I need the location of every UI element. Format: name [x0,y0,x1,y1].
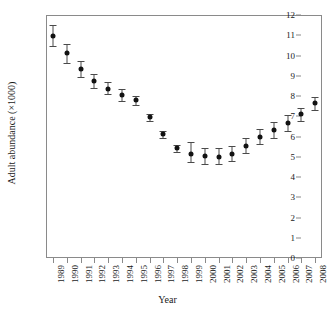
error-bar-cap [187,142,194,143]
x-tick-label: 2000 [209,265,218,283]
error-bar-cap [63,63,70,64]
error-bar-cap [243,153,250,154]
x-tick-label: 1991 [85,265,94,283]
data-point [64,51,69,56]
error-bar-cap [243,138,250,139]
data-point [244,144,249,149]
x-tick-mark [53,258,54,263]
abundance-chart-figure: Adult abundance (×1000) Year 01234567891… [0,0,335,316]
error-bar-cap [298,108,305,109]
error-bar-cap [256,129,263,130]
error-bar-cap [49,46,56,47]
y-tick-label: 0 [291,254,296,263]
y-tick-mark [296,35,301,36]
x-tick-mark [232,258,233,263]
error-bar-cap [132,96,139,97]
error-bar-cap [63,44,70,45]
data-point [50,34,55,39]
data-point [92,78,97,83]
x-tick-mark [122,258,123,263]
y-tick-label: 7 [291,112,296,121]
error-bar-cap [201,164,208,165]
error-bar-cap [77,77,84,78]
x-tick-label: 2002 [236,265,245,283]
error-bar-cap [187,162,194,163]
x-tick-label: 1999 [195,265,204,283]
error-bar-cap [105,82,112,83]
x-tick-label: 2004 [264,265,273,283]
data-point [133,98,138,103]
y-tick-label: 5 [291,152,296,161]
data-point [78,67,83,72]
x-tick-label: 1993 [112,265,121,283]
error-bar-cap [201,148,208,149]
y-tick-mark [296,136,301,137]
x-tick-mark [136,258,137,263]
error-bar-cap [91,74,98,75]
error-bar-cap [312,97,319,98]
x-tick-label: 2005 [278,265,287,283]
error-bar-cap [256,144,263,145]
x-tick-mark [274,258,275,263]
x-tick-label: 1997 [167,265,176,283]
y-tick-label: 11 [286,31,295,40]
x-tick-mark [246,258,247,263]
error-bar-cap [174,152,181,153]
x-tick-mark [163,258,164,263]
x-tick-mark [191,258,192,263]
x-tick-label: 1994 [126,265,135,283]
y-tick-mark [296,96,301,97]
error-bar-cap [298,121,305,122]
y-tick-mark [296,15,301,16]
y-tick-label: 12 [286,11,295,20]
x-tick-mark [94,258,95,263]
x-tick-label: 2001 [223,265,232,283]
y-tick-mark [296,258,301,259]
x-tick-mark [315,258,316,263]
y-tick-label: 1 [291,233,296,242]
error-bar-cap [215,164,222,165]
error-bar-cap [49,25,56,26]
y-tick-mark [296,75,301,76]
error-bar-cap [132,105,139,106]
x-tick-mark [177,258,178,263]
x-tick-label: 2003 [250,265,259,283]
data-point [106,86,111,91]
x-tick-label: 1996 [154,265,163,283]
error-bar-cap [160,138,167,139]
x-tick-label: 1990 [71,265,80,283]
y-tick-label: 6 [291,132,296,141]
x-axis-label: Year [0,295,335,305]
x-tick-label: 1995 [140,265,149,283]
x-tick-mark [301,258,302,263]
x-tick-label: 1992 [98,265,107,283]
error-bar-cap [118,101,125,102]
x-tick-label: 2006 [292,265,301,283]
data-point [285,120,290,125]
error-bar-cap [91,88,98,89]
error-bar-cap [229,146,236,147]
data-point [216,154,221,159]
error-bar-cap [215,148,222,149]
error-bar-cap [312,110,319,111]
data-point [271,128,276,133]
data-point [175,146,180,151]
y-tick-label: 4 [291,173,296,182]
error-bar-cap [270,122,277,123]
x-tick-mark [288,258,289,263]
x-tick-mark [81,258,82,263]
plot-area [46,15,322,258]
data-point [202,154,207,159]
error-bar-cap [146,121,153,122]
data-point [161,132,166,137]
error-bar-cap [77,61,84,62]
y-tick-mark [296,156,301,157]
y-axis-label: Adult abundance (×1000) [7,58,17,208]
error-bar-cap [284,131,291,132]
y-tick-label: 3 [291,193,296,202]
data-point [188,151,193,156]
y-tick-mark [296,197,301,198]
x-tick-label: 2007 [305,265,314,283]
y-tick-label: 9 [291,71,296,80]
x-tick-label: 1989 [57,265,66,283]
